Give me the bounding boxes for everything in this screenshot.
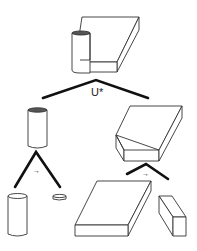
cylinder-operation-arrow: → xyxy=(33,167,40,174)
child-cylinder xyxy=(28,108,47,148)
leaf-thin-disc xyxy=(53,194,66,200)
block-operation-arrow: → xyxy=(142,170,149,177)
root-combined-part xyxy=(72,17,139,73)
csg-tree-diagram: U* → → xyxy=(0,0,197,251)
child-beveled-block xyxy=(116,106,182,161)
union-operator-label: U* xyxy=(91,87,103,98)
leaf-tall-cylinder xyxy=(8,194,27,237)
leaf-flat-slab xyxy=(75,181,151,236)
leaf-small-block xyxy=(159,196,186,236)
